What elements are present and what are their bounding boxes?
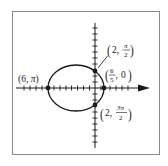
svg-text:): ) [130,41,134,58]
polar-graph-figure: (6, π) ( 2, π 2 ) ( 6 5 , 0 ) ( 2, 3π 2 [0,0,168,166]
label-point-2-pi-over-2: ( 2, π 2 ) [107,41,134,59]
svg-text:): ) [128,66,132,83]
svg-text:2: 2 [119,114,123,122]
svg-text:(: ( [105,66,109,83]
svg-text:): ) [128,105,132,122]
point-2-3pi-over-2 [93,103,98,108]
svg-text:5: 5 [110,76,114,84]
x-axis-arrow-icon [138,85,150,92]
y-axis [93,23,98,148]
svg-text:2: 2 [124,51,128,59]
label-point-2-3pi-over-2: ( 2, 3π 2 ) [100,104,132,122]
polar-graph-svg: (6, π) ( 2, π 2 ) ( 6 5 , 0 ) ( 2, 3π 2 [0,0,168,166]
svg-text:0: 0 [121,70,126,80]
svg-text:(: ( [107,41,111,58]
svg-text:3π: 3π [116,104,125,112]
svg-text:2,: 2, [105,108,112,118]
label-point-6-5-0: ( 6 5 , 0 ) [105,66,132,84]
svg-text:(: ( [100,105,104,122]
point-6-pi [46,86,51,91]
point-2-pi-over-2 [93,69,98,74]
svg-text:6: 6 [110,67,114,75]
svg-text:π: π [124,42,128,50]
x-axis [16,85,150,92]
svg-text:2,: 2, [112,45,119,55]
label-point-6-pi: (6, π) [18,74,39,85]
svg-text:,: , [116,70,118,80]
point-6-5-0 [102,86,107,91]
